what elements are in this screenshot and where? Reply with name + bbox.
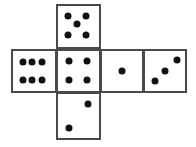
pip-dot <box>65 125 72 132</box>
pip-dot <box>82 31 89 38</box>
pip-dot <box>152 78 159 85</box>
pip-dot <box>73 21 80 28</box>
pip-dot <box>64 31 71 38</box>
pip-dot <box>119 68 126 75</box>
pip-dot <box>65 58 72 65</box>
bottom-face <box>56 92 101 140</box>
center-face <box>56 49 101 93</box>
pip-dot <box>38 59 45 66</box>
pip-dot <box>29 59 36 66</box>
pip-dot <box>84 100 91 107</box>
pip-dot <box>29 76 36 83</box>
pip-dot <box>173 56 180 63</box>
pip-dot <box>162 68 169 75</box>
cube-net-figure <box>0 0 196 147</box>
top-face <box>56 4 101 49</box>
pip-dot <box>20 59 27 66</box>
pip-dot <box>83 76 90 83</box>
pip-dot <box>38 76 45 83</box>
right-outer-face <box>143 49 187 93</box>
pip-dot <box>20 76 27 83</box>
left-face <box>11 49 57 93</box>
pip-dot <box>65 76 72 83</box>
pip-dot <box>64 12 71 19</box>
pip-dot <box>83 58 90 65</box>
right-inner-face <box>100 49 144 93</box>
pip-dot <box>82 12 89 19</box>
